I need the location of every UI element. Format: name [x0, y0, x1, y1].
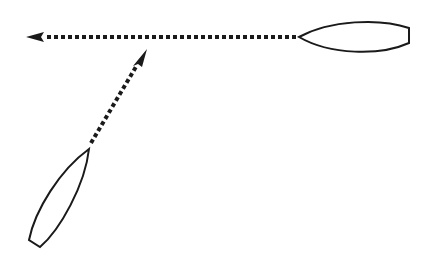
arrowhead-up-right-icon [133, 49, 147, 67]
boat-course-diagram [0, 0, 430, 262]
course-line-diagonal [91, 65, 137, 143]
arrowhead-left-icon [26, 32, 44, 42]
boat-hull-lower-left [29, 149, 89, 247]
boat-hull-right [299, 22, 409, 52]
